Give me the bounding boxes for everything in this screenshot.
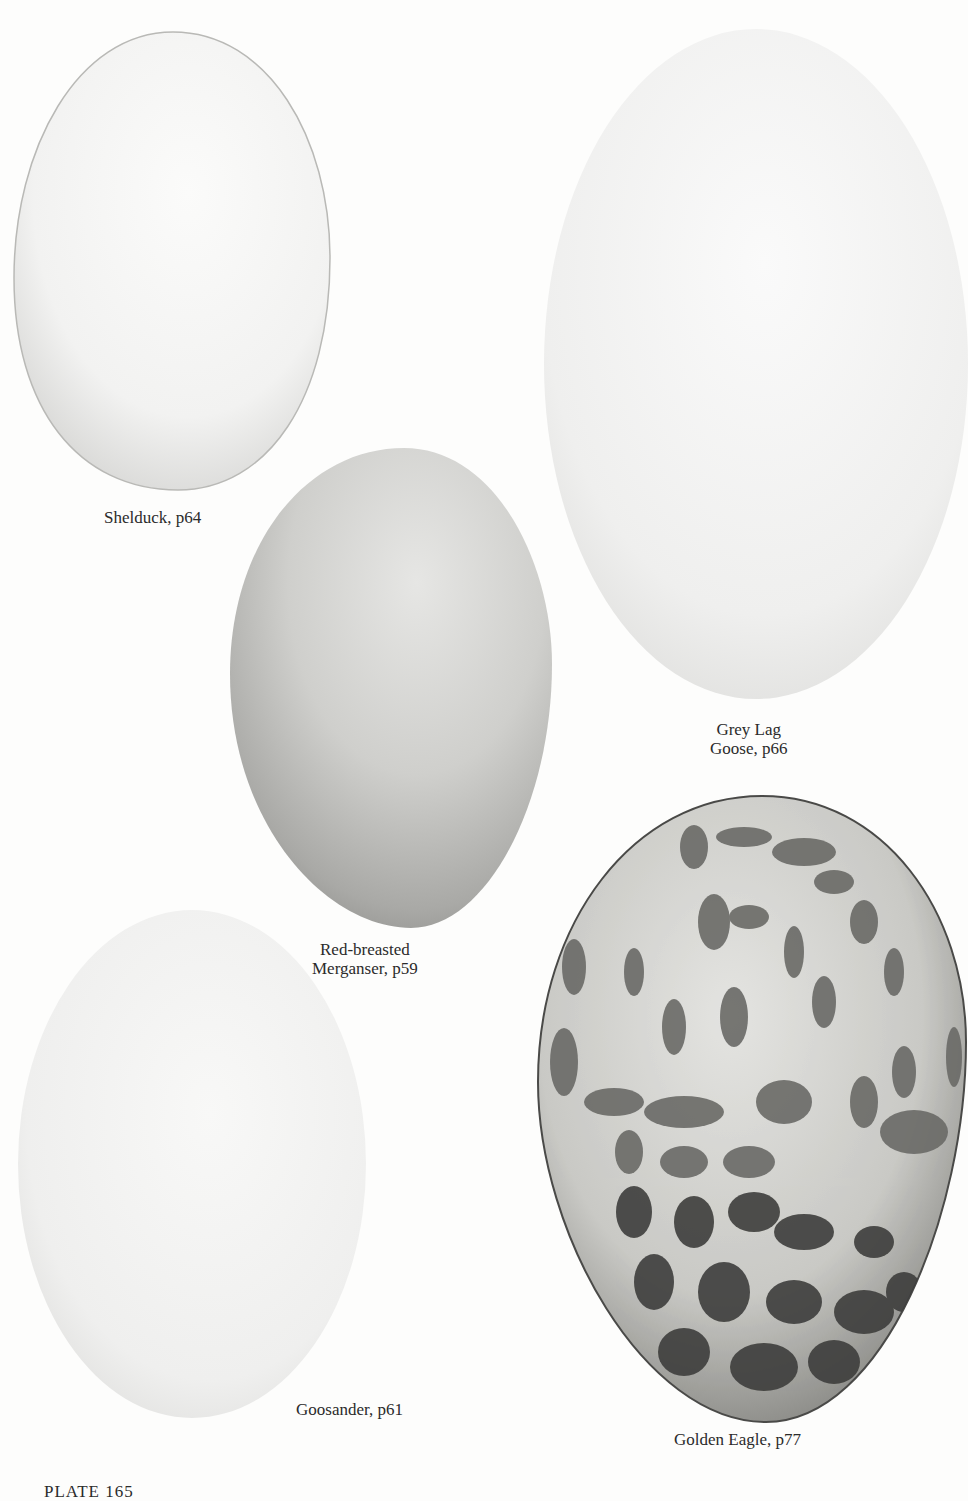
caption-line: Goosander, p61 — [296, 1400, 403, 1419]
caption-line: Shelduck, p64 — [104, 508, 201, 527]
goosander-egg-illustration — [14, 906, 374, 1426]
plate-number: PLATE 165 — [44, 1482, 134, 1501]
red-breasted-merganser-egg-illustration — [226, 444, 556, 934]
caption-line: Grey Lag — [710, 720, 787, 739]
goosander-caption: Goosander, p61 — [296, 1400, 403, 1419]
golden-eagle-egg-illustration — [534, 792, 968, 1428]
golden-eagle-caption: Golden Eagle, p77 — [674, 1430, 801, 1449]
grey-lag-goose-caption: Grey Lag Goose, p66 — [710, 720, 787, 758]
caption-line: Goose, p66 — [710, 739, 787, 758]
shelduck-caption: Shelduck, p64 — [104, 508, 201, 527]
caption-line: Golden Eagle, p77 — [674, 1430, 801, 1449]
shelduck-egg-illustration — [8, 28, 338, 498]
grey-lag-goose-egg-illustration — [538, 24, 968, 704]
